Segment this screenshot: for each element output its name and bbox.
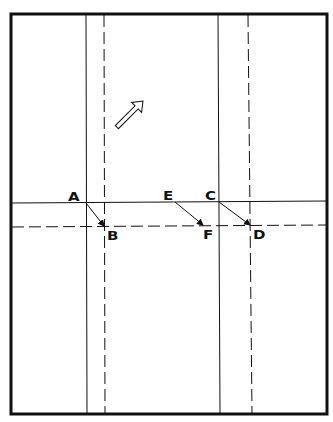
label-a: A bbox=[68, 191, 80, 203]
label-f: F bbox=[203, 229, 213, 241]
label-d: D bbox=[253, 229, 265, 241]
paper-frame bbox=[11, 14, 327, 414]
label-e: E bbox=[163, 190, 173, 202]
fold-diagram bbox=[0, 0, 333, 422]
label-c: C bbox=[205, 190, 216, 202]
label-b: B bbox=[107, 230, 118, 242]
